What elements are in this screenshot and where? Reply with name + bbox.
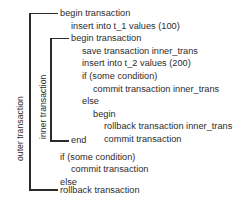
code-line: save transaction inner_trans	[82, 47, 198, 56]
code-line: rollback transaction	[60, 186, 140, 195]
code-line: begin transaction	[71, 34, 141, 43]
code-line: rollback transaction inner_trans	[104, 122, 232, 131]
inner-bracket-top-arm	[50, 38, 69, 40]
code-line: else	[82, 97, 99, 106]
transaction-nesting-diagram: outer transaction inner transaction begi…	[0, 0, 238, 201]
code-line: if (some condition)	[60, 153, 135, 162]
outer-bracket-top-arm	[29, 13, 58, 15]
code-line: commit transaction	[71, 165, 148, 174]
inner-bracket-spine	[50, 38, 52, 142]
code-line: if (some condition)	[82, 72, 157, 81]
inner-transaction-label: inner transaction	[38, 75, 48, 139]
outer-bracket-spine	[29, 13, 31, 191]
code-line: insert into t_2 values (200)	[82, 59, 191, 68]
code-line: commit transaction	[104, 135, 181, 144]
outer-bracket-bottom-arm	[29, 189, 58, 191]
code-line: end	[71, 136, 86, 145]
code-line: begin transaction	[60, 9, 130, 18]
inner-bracket-bottom-arm	[50, 140, 69, 142]
code-line: begin	[93, 110, 116, 119]
outer-transaction-label: outer transaction	[15, 96, 25, 161]
code-line: insert into t_1 values (100)	[71, 22, 180, 31]
code-line: commit transaction inner_trans	[93, 85, 219, 94]
